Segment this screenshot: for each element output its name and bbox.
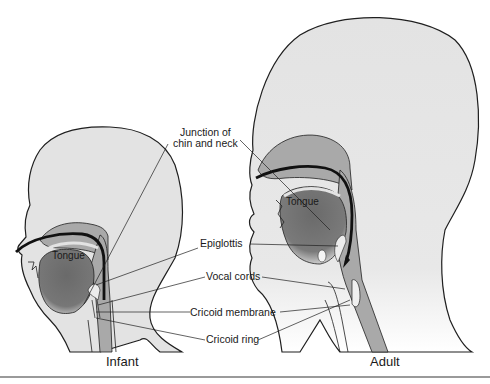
label-cricoid-ring: Cricoid ring <box>206 333 259 345</box>
infant-caption: Infant <box>106 354 139 369</box>
adult-head <box>250 18 479 352</box>
label-vocal-cords: Vocal cords <box>206 270 260 282</box>
label-epiglottis: Epiglottis <box>200 237 243 249</box>
adult-caption: Adult <box>370 354 400 369</box>
label-junction-line2: chin and neck <box>173 137 238 149</box>
infant-tongue-label: Tongue <box>52 250 85 261</box>
adult-tongue-label: Tongue <box>286 196 319 207</box>
label-cricoid-membrane: Cricoid membrane <box>190 306 276 318</box>
infant-head <box>16 127 183 352</box>
anatomy-illustration <box>0 0 490 384</box>
bottom-rule <box>0 376 490 378</box>
airway-diagram: Junction of chin and neck Epiglottis Voc… <box>0 0 490 384</box>
